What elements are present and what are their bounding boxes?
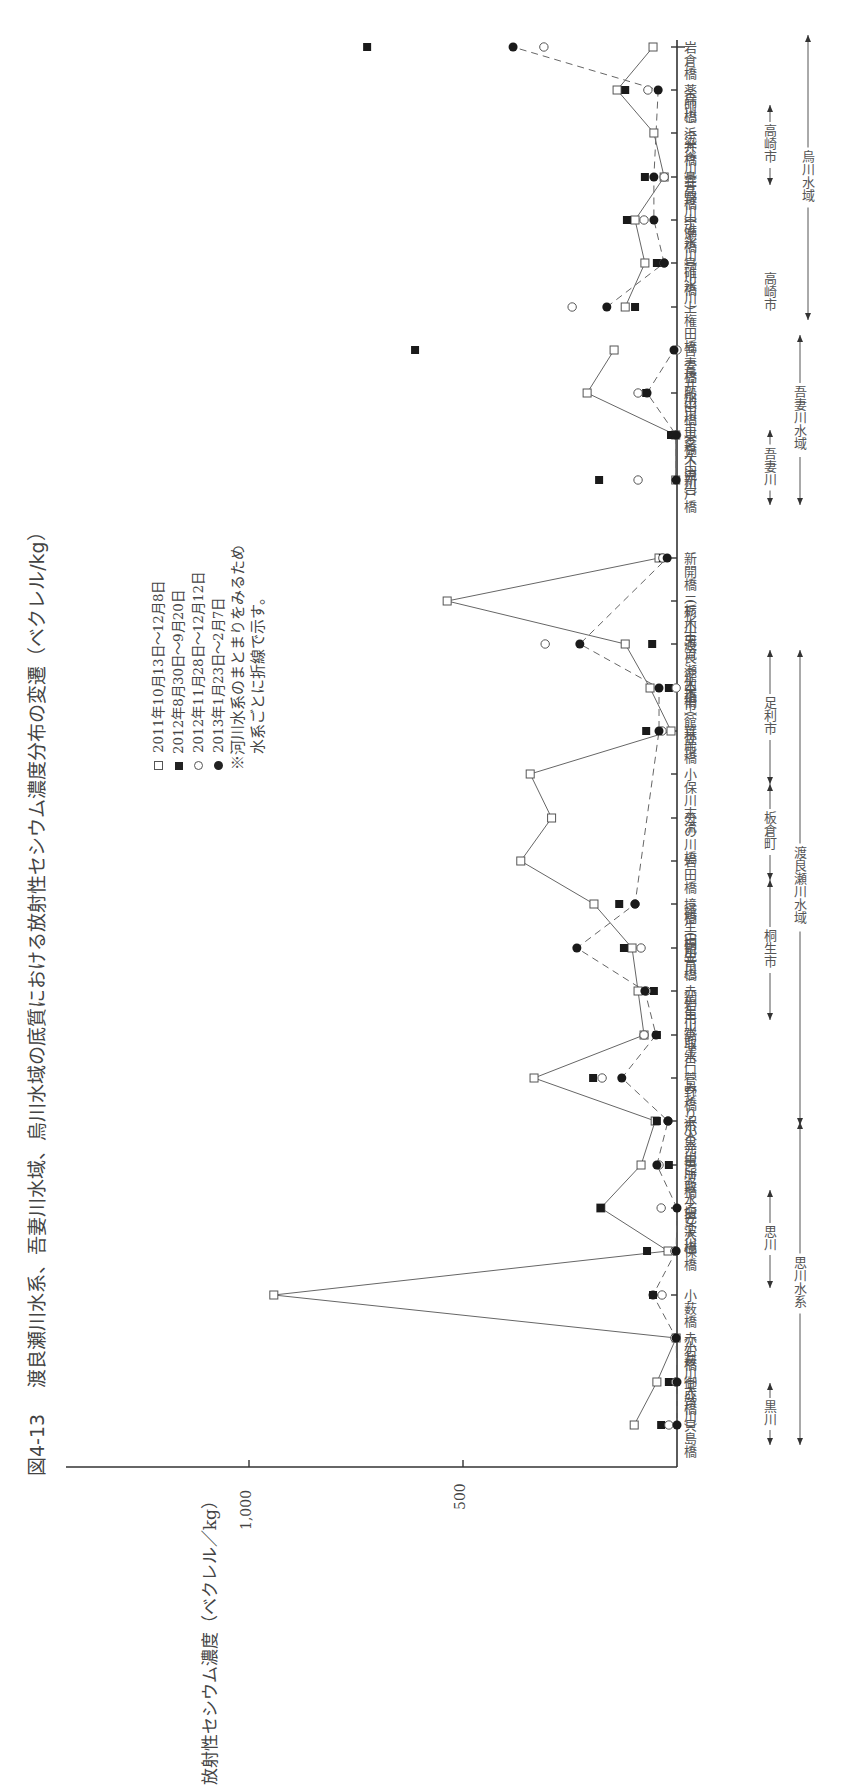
filled-circle-icon bbox=[214, 761, 223, 770]
filled-circle-icon bbox=[631, 900, 640, 909]
open-square-icon bbox=[650, 129, 658, 137]
open-circle-icon bbox=[598, 1074, 606, 1082]
filled-circle-icon bbox=[660, 259, 669, 268]
open-square-icon bbox=[526, 770, 534, 778]
station-label: 岩田橋（鶴生田川） bbox=[683, 855, 698, 972]
open-square-icon bbox=[630, 1421, 638, 1429]
open-square-icon bbox=[621, 303, 629, 311]
open-square-icon bbox=[646, 684, 654, 692]
filled-square-icon bbox=[650, 987, 658, 995]
open-square-icon bbox=[517, 857, 525, 865]
filled-circle-icon bbox=[572, 944, 581, 953]
open-circle-icon bbox=[665, 1421, 673, 1429]
station-label: 新開橋（栃木市） bbox=[683, 551, 698, 656]
open-circle-icon bbox=[634, 389, 642, 397]
filled-square-icon bbox=[642, 727, 650, 735]
filled-circle-icon bbox=[654, 86, 663, 95]
open-circle-icon bbox=[540, 43, 548, 51]
figure-title: 図4-13 渡良瀬川水系、吾妻川水域、烏川水域の底質における放射性セシウム濃度分… bbox=[22, 522, 49, 1476]
filled-circle-icon bbox=[673, 1204, 682, 1213]
axis-label: 放射性セシウム濃度（ベクレル／kg） bbox=[196, 1492, 221, 1785]
open-square-icon bbox=[610, 346, 618, 354]
open-square-icon bbox=[653, 1378, 661, 1386]
filled-square-icon bbox=[643, 1247, 651, 1255]
filled-circle-icon bbox=[602, 303, 611, 312]
legend-note: ※河川水系のまとまりをみるため bbox=[228, 545, 248, 770]
open-circle-icon bbox=[644, 86, 652, 94]
open-circle-icon bbox=[194, 761, 203, 770]
open-square-icon bbox=[613, 86, 621, 94]
filled-circle-icon bbox=[672, 476, 681, 485]
legend-note-2: 水系ごとに折線で示す。 bbox=[248, 545, 268, 770]
filled-circle-icon bbox=[652, 1161, 661, 1170]
open-square-icon bbox=[583, 389, 591, 397]
figure-title-text: 渡良瀬川水系、吾妻川水域、烏川水域の底質における放射性セシウム濃度分布の変遷（ベ… bbox=[26, 522, 48, 1387]
tick-label-1000: 1,000 bbox=[238, 1490, 254, 1530]
solid-series-line bbox=[274, 558, 676, 1425]
filled-circle-icon bbox=[672, 1247, 681, 1256]
region-label: 吾妻川 bbox=[763, 447, 778, 486]
filled-square-icon bbox=[589, 1074, 597, 1082]
filled-circle-icon bbox=[575, 640, 584, 649]
filled-square-icon bbox=[657, 1421, 665, 1429]
open-square-icon bbox=[548, 814, 556, 822]
legend: 2011年10月13日～12月8日 2012年8月30日～9月20日 2012年… bbox=[148, 545, 268, 770]
solid-series-line bbox=[587, 350, 676, 480]
open-square-icon bbox=[621, 640, 629, 648]
open-square-icon bbox=[667, 727, 675, 735]
filled-square-icon bbox=[363, 43, 371, 51]
filled-square-icon bbox=[595, 476, 603, 484]
station-label: 上権田橋（長井川） bbox=[683, 301, 698, 418]
legend-item: 2012年11月28日～12月12日 bbox=[188, 545, 208, 770]
filled-circle-icon bbox=[673, 1421, 682, 1430]
filled-circle-icon bbox=[672, 431, 681, 440]
filled-circle-icon bbox=[649, 216, 658, 225]
dashed-series-line bbox=[647, 350, 676, 480]
filled-circle-icon bbox=[640, 987, 649, 996]
legend-item: 2012年8月30日～9月20日 bbox=[168, 545, 188, 770]
filled-circle-icon bbox=[663, 554, 672, 563]
filled-square-icon bbox=[615, 900, 623, 908]
filled-square-icon bbox=[641, 173, 649, 181]
open-circle-icon bbox=[640, 1031, 648, 1039]
filled-square-icon bbox=[665, 1161, 673, 1169]
open-circle-icon bbox=[660, 173, 668, 181]
filled-square-icon bbox=[648, 640, 656, 648]
filled-circle-icon bbox=[643, 389, 652, 398]
region-label: 黒川 bbox=[763, 1400, 778, 1426]
open-square-icon bbox=[154, 761, 163, 770]
open-square-icon bbox=[641, 259, 649, 267]
region-label: 高崎市 bbox=[763, 123, 778, 163]
region-brackets: 黒川思川思川水系桐生市板倉町足利市渡良瀬川水域吾妻川吾妻川水域高崎市高崎市烏川水… bbox=[762, 35, 816, 1445]
open-circle-icon bbox=[672, 684, 680, 692]
open-square-icon bbox=[530, 1074, 538, 1082]
filled-square-icon bbox=[621, 86, 629, 94]
filled-square-icon bbox=[411, 346, 419, 354]
region-label: 高崎市 bbox=[763, 271, 778, 311]
filled-circle-icon bbox=[509, 43, 518, 52]
filled-square-icon bbox=[620, 944, 628, 952]
open-circle-icon bbox=[634, 476, 642, 484]
filled-circle-icon bbox=[655, 727, 664, 736]
filled-square-icon bbox=[175, 762, 183, 770]
legend-item: 2013年1月23日～2月7日 bbox=[208, 545, 228, 770]
filled-circle-icon bbox=[649, 173, 658, 182]
filled-circle-icon bbox=[670, 346, 679, 355]
open-square-icon bbox=[443, 597, 451, 605]
open-circle-icon bbox=[658, 1291, 666, 1299]
figure-number: 図4-13 bbox=[26, 1414, 48, 1476]
region-label: 渡良瀬川水域 bbox=[793, 845, 808, 924]
open-square-icon bbox=[649, 43, 657, 51]
filled-circle-icon bbox=[655, 684, 664, 693]
open-circle-icon bbox=[640, 216, 648, 224]
region-label: 板倉町 bbox=[763, 811, 778, 850]
region-label: 足利市 bbox=[763, 696, 778, 735]
filled-square-icon bbox=[597, 1204, 605, 1212]
filled-square-icon bbox=[653, 1117, 661, 1125]
region-label: 吾妻川水域 bbox=[793, 385, 808, 450]
filled-circle-icon bbox=[673, 1378, 682, 1387]
open-circle-icon bbox=[568, 303, 576, 311]
filled-square-icon bbox=[623, 216, 631, 224]
open-circle-icon bbox=[637, 944, 645, 952]
